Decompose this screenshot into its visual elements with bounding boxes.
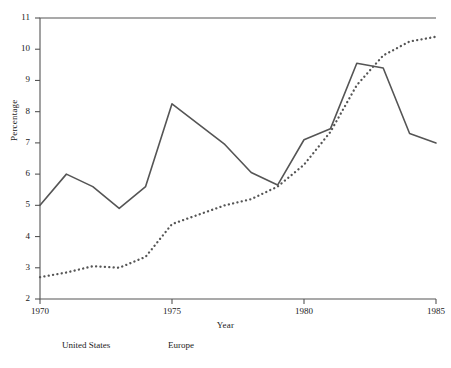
x-tick-label: 1970 xyxy=(20,306,60,316)
y-tick-label: 11 xyxy=(12,12,30,22)
y-tick-label: 8 xyxy=(12,106,30,116)
y-tick-label: 9 xyxy=(12,74,30,84)
y-tick-label: 3 xyxy=(12,262,30,272)
series-line-united-states xyxy=(40,63,436,208)
y-tick-label: 4 xyxy=(12,231,30,241)
y-tick-label: 7 xyxy=(12,137,30,147)
y-tick-label: 10 xyxy=(12,43,30,53)
chart-legend: United States Europe xyxy=(0,340,451,360)
legend-label-united-states: United States xyxy=(62,340,110,350)
x-tick-label: 1985 xyxy=(416,306,451,316)
chart-container: Percentage Year 234567891011 19701975198… xyxy=(0,0,451,368)
y-tick-label: 6 xyxy=(12,168,30,178)
y-axis-ticks xyxy=(35,18,40,299)
x-tick-label: 1975 xyxy=(152,306,192,316)
x-axis-title: Year xyxy=(0,320,451,330)
y-tick-label: 2 xyxy=(12,293,30,303)
x-tick-label: 1980 xyxy=(284,306,324,316)
legend-label-europe: Europe xyxy=(168,340,194,350)
chart-plot-area xyxy=(0,0,451,368)
x-axis-ticks xyxy=(40,299,436,304)
series-line-europe xyxy=(40,37,436,277)
y-tick-label: 5 xyxy=(12,199,30,209)
